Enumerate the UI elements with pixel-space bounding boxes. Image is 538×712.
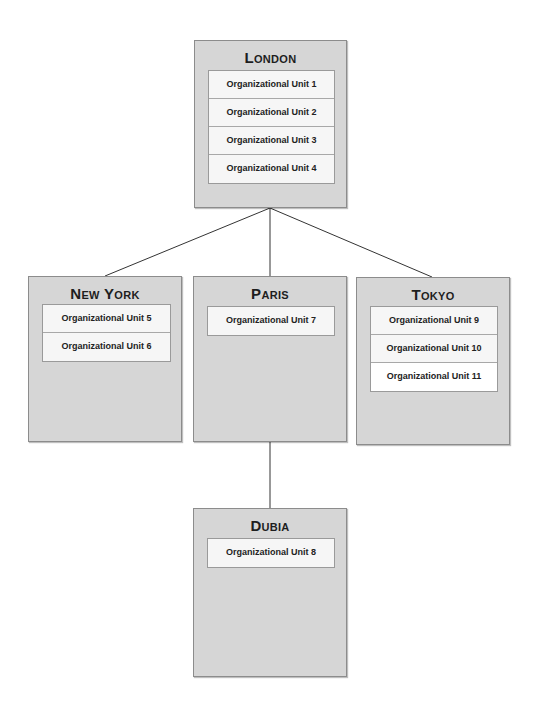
org-unit[interactable]: Organizational Unit 5 [43,305,170,333]
unit-list: Organizational Unit 8 [207,538,335,568]
office-new-york[interactable]: New York Organizational Unit 5 Organizat… [28,276,182,442]
office-tokyo[interactable]: Tokyo Organizational Unit 9 Organization… [356,277,510,445]
org-unit[interactable]: Organizational Unit 11 [371,363,497,391]
office-title: Tokyo [357,286,509,303]
unit-list: Organizational Unit 9 Organizational Uni… [370,306,498,392]
org-unit[interactable]: Organizational Unit 10 [371,335,497,363]
office-title: London [195,49,346,66]
unit-list: Organizational Unit 5 Organizational Uni… [42,304,171,362]
org-unit[interactable]: Organizational Unit 4 [209,155,334,183]
org-unit[interactable]: Organizational Unit 1 [209,71,334,99]
org-unit[interactable]: Organizational Unit 2 [209,99,334,127]
org-unit[interactable]: Organizational Unit 9 [371,307,497,335]
org-unit[interactable]: Organizational Unit 6 [43,333,170,361]
org-unit[interactable]: Organizational Unit 3 [209,127,334,155]
office-title: Dubia [194,517,346,534]
office-title: New York [29,285,181,302]
org-unit[interactable]: Organizational Unit 7 [208,307,334,335]
office-paris[interactable]: Paris Organizational Unit 7 [193,276,347,442]
unit-list: Organizational Unit 1 Organizational Uni… [208,70,335,184]
link-london-tokyo [270,208,432,277]
link-london-new-york [105,208,270,276]
unit-list: Organizational Unit 7 [207,306,335,336]
office-title: Paris [194,285,346,302]
org-unit[interactable]: Organizational Unit 8 [208,539,334,567]
office-london[interactable]: London Organizational Unit 1 Organizatio… [194,40,347,208]
office-dubia[interactable]: Dubia Organizational Unit 8 [193,508,347,677]
